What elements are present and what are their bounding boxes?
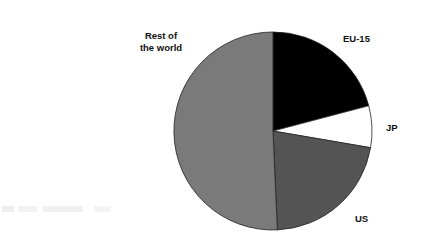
label-rest-of-world-line2: the world: [136, 42, 186, 54]
pie-slice-rest-of-the-world: [174, 32, 277, 230]
label-rest-of-world: Rest of the world: [136, 30, 186, 54]
label-us: US: [355, 213, 368, 225]
label-jp: JP: [386, 122, 398, 134]
label-eu15: EU-15: [343, 33, 370, 45]
label-rest-of-world-line1: Rest of: [136, 30, 186, 42]
